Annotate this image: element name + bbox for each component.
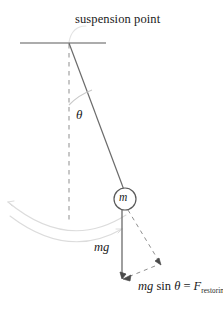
bob-mass-label: m [119,191,127,203]
equation-mg-term: mg [138,279,153,293]
equation-sin-term: sin [156,279,171,293]
restoring-force-dashed-line [128,266,155,277]
leader-line-suspension-point [69,26,86,42]
pendulum-figure [0,0,223,309]
component-dashed-line [128,210,160,263]
theta-angle-arc [69,90,92,105]
pendulum-diagram: suspension point θ m mg mg sin θ = Frest… [0,0,223,309]
weight-label-mg: mg [94,240,109,255]
component-arrowhead [155,258,161,265]
suspension-point-label: suspension point [75,12,160,27]
restoring-force-equation: mg sin θ = Frestoring [138,279,223,295]
swing-arrow-left [8,201,14,206]
swing-path-arcs [8,201,126,242]
equation-force-subscript: restoring [201,287,223,295]
swing-arc-inner [10,216,122,242]
theta-angle-label: θ [76,107,82,123]
